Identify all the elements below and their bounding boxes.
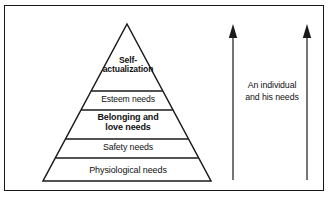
pyramid-tier-label-physiological-needs: Physiological needs [48, 166, 208, 176]
pyramid-tier-label-esteem-needs: Esteem needs [72, 95, 184, 104]
pyramid-tier-label-self-actualization: Self- actualization [86, 56, 170, 74]
pyramid-tier-label-safety-needs: Safety needs [60, 143, 196, 152]
pyramid-tier-label-belonging-and-love-needs: Belonging and love needs [62, 113, 194, 132]
right-arrow [303, 24, 311, 180]
diagram-screenshot: Self- actualization Esteem needs Belongi… [0, 0, 330, 198]
left-arrow [229, 24, 237, 180]
annotation-individual-needs: An individual and his needs [240, 79, 304, 104]
left-arrow-head [229, 24, 237, 38]
right-arrow-head [303, 24, 311, 38]
